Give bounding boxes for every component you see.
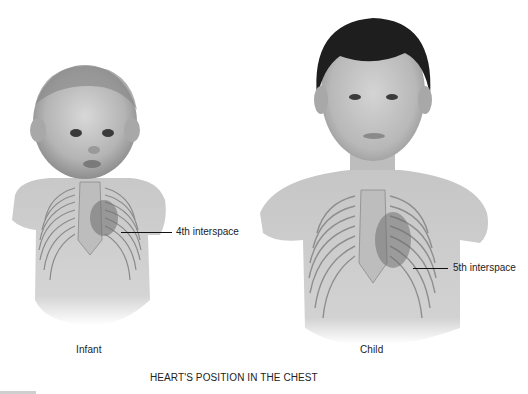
child-illustration <box>255 8 495 343</box>
infant-illustration <box>0 60 200 330</box>
child-interspace-label: 5th interspace <box>453 262 516 273</box>
infant-body-icon <box>0 60 200 330</box>
figure-title: HEART'S POSITION IN THE CHEST <box>150 372 318 383</box>
infant-leader-line <box>121 232 172 233</box>
infant-interspace-label: 4th interspace <box>176 226 239 237</box>
child-caption: Child <box>360 344 383 355</box>
infant-caption: Infant <box>76 344 102 355</box>
child-leader-line <box>413 268 448 269</box>
child-body-icon <box>255 8 495 343</box>
